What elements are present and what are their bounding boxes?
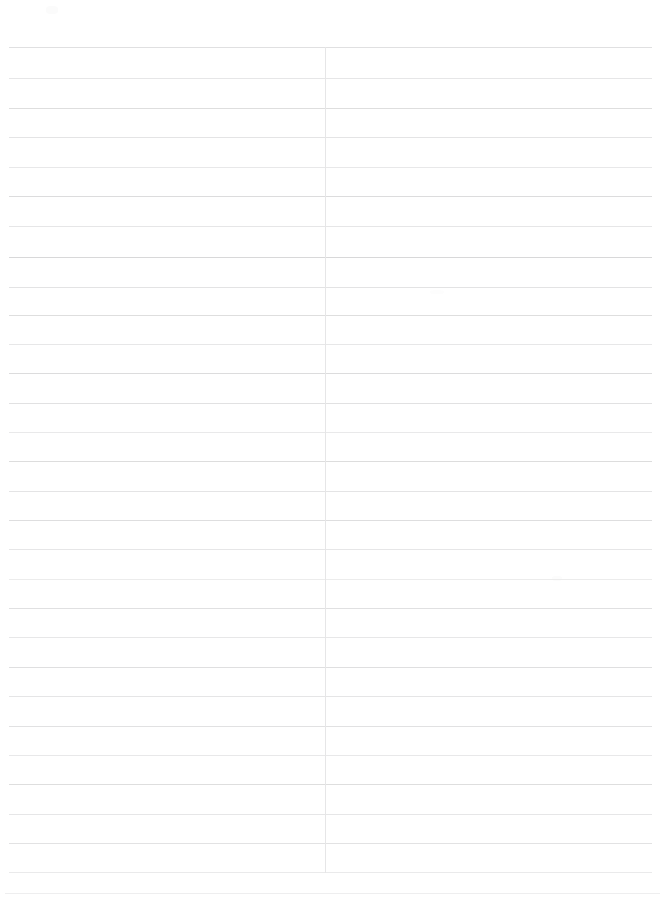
scan-smudge: [46, 6, 58, 14]
horizontal-rule: [5, 893, 660, 894]
scanned-page: [0, 0, 671, 909]
page-content-area[interactable]: [9, 47, 652, 893]
